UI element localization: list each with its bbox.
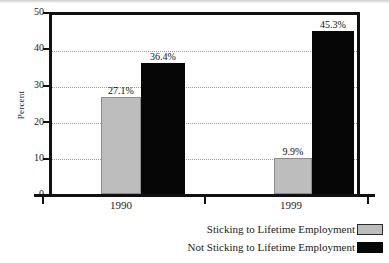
legend-swatch-gray xyxy=(357,224,383,235)
bar-1990-not-sticking xyxy=(141,63,185,194)
x-tick-mark-left xyxy=(42,197,44,204)
legend-label-sticking: Sticking to Lifetime Employment xyxy=(207,223,357,235)
bar-1999-sticking xyxy=(274,158,312,194)
value-label-1990-not-sticking: 36.4% xyxy=(133,52,193,62)
bar-chart-figure: Percent 50 40 30 20 10 0 27.1% xyxy=(0,0,389,263)
legend-swatch-black xyxy=(357,242,383,253)
legend-label-not-sticking: Not Sticking to Lifetime Employment xyxy=(188,241,357,253)
y-tick-label-10: 10 xyxy=(22,153,44,163)
plot-inner: 27.1% 36.4% 9.9% 45.3% xyxy=(52,15,357,194)
bar-1999-not-sticking xyxy=(312,31,354,194)
x-tick-mark-middle xyxy=(204,197,206,204)
bar-1990-sticking xyxy=(101,97,141,194)
y-tick-label-30: 30 xyxy=(22,80,44,90)
value-label-1999-not-sticking: 45.3% xyxy=(303,20,363,30)
value-label-1999-sticking: 9.9% xyxy=(265,147,321,157)
x-tick-mark-right xyxy=(367,197,369,204)
plot-area: 27.1% 36.4% 9.9% 45.3% xyxy=(49,12,360,194)
chart-legend: Sticking to Lifetime Employment Not Stic… xyxy=(143,220,383,256)
y-tick-label-20: 20 xyxy=(22,117,44,127)
x-category-label-1990: 1990 xyxy=(91,199,151,211)
y-tick-label-50: 50 xyxy=(22,7,44,17)
y-axis-title: Percent xyxy=(2,0,12,60)
value-label-1990-sticking: 27.1% xyxy=(91,86,151,96)
y-tick-label-40: 40 xyxy=(22,43,44,53)
legend-item-sticking: Sticking to Lifetime Employment xyxy=(143,220,383,238)
x-category-label-1999: 1999 xyxy=(261,199,321,211)
y-axis-title-text: Percent xyxy=(16,60,26,150)
legend-item-not-sticking: Not Sticking to Lifetime Employment xyxy=(143,238,383,256)
